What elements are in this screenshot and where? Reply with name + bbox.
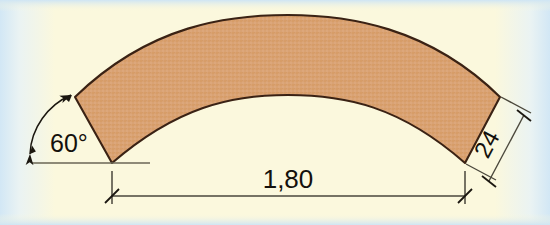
angle-dimension-label: 60° (50, 129, 88, 157)
arc-beam-drawing: 60° 1,80 24 (0, 0, 550, 225)
span-dimension-label: 1,80 (263, 164, 314, 194)
diagram-canvas: 60° 1,80 24 (0, 0, 550, 225)
